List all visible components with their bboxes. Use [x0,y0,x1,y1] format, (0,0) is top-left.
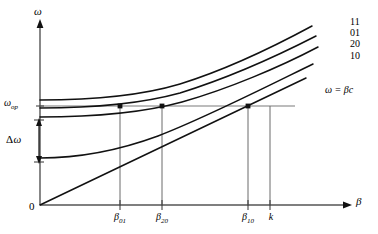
curve-mode-10 [40,64,313,158]
delta-omega-label: Δω [6,134,22,145]
dot-beta-01 [118,104,123,109]
curve-label-mode-20: 20 [350,39,360,49]
curve-label-mode-10: 10 [350,51,360,61]
dispersion-diagram: ω β 0 ωop Δω 11 01 20 10 ω = βc β01 β20 … [0,0,378,234]
axes-group [37,19,352,208]
curve-mode-11 [40,26,312,100]
omega-op-label: ωop [4,98,18,111]
y-axis-label: ω [34,6,42,17]
curve-mode-01 [40,36,316,108]
origin-label: 0 [29,201,35,212]
delta-omega-arrowhead-top [36,118,42,126]
delta-omega-arrow [36,118,42,164]
light-line [40,78,306,205]
light-line-label: ω = βc [325,85,353,95]
x-axis-label: β [356,196,361,207]
xtick-subscript-beta-01: 01 [119,217,126,225]
dot-beta-10 [246,104,251,109]
xtick-label-beta-20: β20 [156,212,168,225]
xtick-subscript-beta-20: 20 [161,217,168,225]
delta-omega-arrowhead-bottom [36,156,42,164]
dot-beta-20 [160,104,165,109]
curve-label-mode-11: 11 [350,17,360,27]
omega-op-symbol: ω [4,97,11,108]
x-axis-arrowhead [343,202,352,209]
xtick-subscript-beta-10: 10 [247,217,254,225]
curve-label-mode-01: 01 [350,28,360,38]
xtick-label-k: k [269,212,273,222]
xtick-label-beta-01: β01 [114,212,126,225]
y-axis-arrowhead [37,19,44,28]
xtick-label-beta-10: β10 [242,212,254,225]
delta-omega-symbol: ω [14,133,22,145]
delta-symbol: Δ [6,133,14,145]
omega-op-subscript: op [11,103,18,111]
diagram-canvas [0,0,378,234]
xtick-symbol-k: k [269,211,273,222]
